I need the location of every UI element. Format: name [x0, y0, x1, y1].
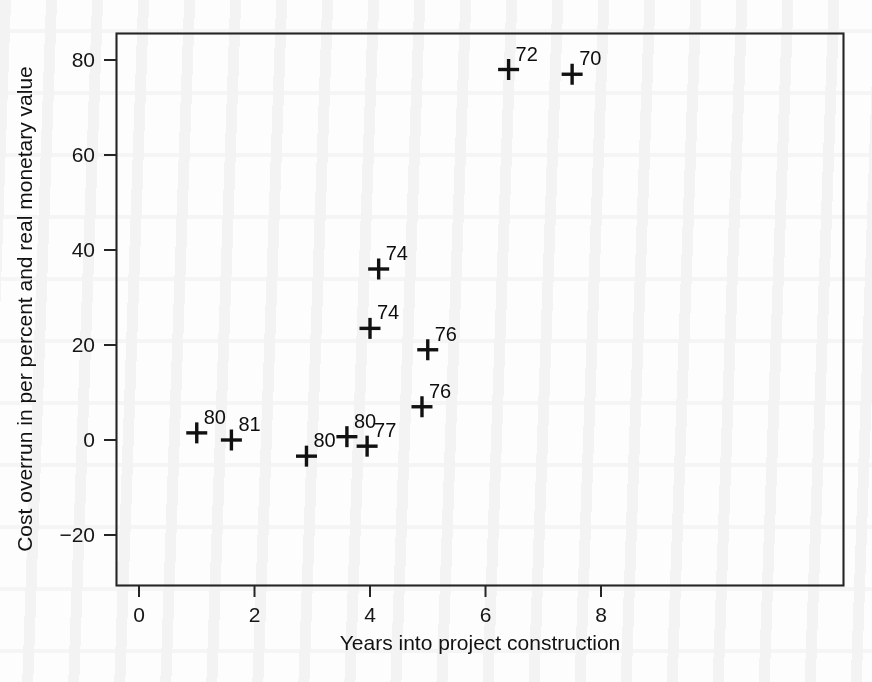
data-point-label: 74 [377, 301, 399, 323]
y-tick-label: 20 [72, 333, 95, 356]
y-axis-tick-labels: −20020406080 [59, 48, 95, 546]
data-point-label: 76 [429, 380, 451, 402]
y-axis-ticks [104, 60, 116, 535]
x-axis-ticks [139, 585, 601, 597]
data-point-label: 81 [238, 413, 260, 435]
data-point: 76 [411, 380, 451, 418]
x-axis-tick-labels: 02468 [133, 603, 607, 626]
data-point-label: 72 [516, 43, 538, 65]
y-tick-label: 60 [72, 143, 95, 166]
y-tick-label: 80 [72, 48, 95, 71]
data-point: 70 [562, 47, 602, 85]
data-point: 80 [296, 429, 336, 467]
y-axis-title: Cost overrun in per percent and real mon… [13, 66, 36, 552]
x-axis-title: Years into project construction [340, 631, 621, 654]
plot-canvas: −20020406080 02468 808180807774747676727… [0, 0, 872, 682]
data-point: 74 [368, 242, 408, 280]
data-point: 72 [498, 43, 538, 81]
scatter-plot-figure: −20020406080 02468 808180807774747676727… [0, 0, 872, 682]
data-point: 81 [221, 413, 261, 451]
y-tick-label: 0 [83, 428, 95, 451]
y-tick-label: 40 [72, 238, 95, 261]
data-point-label: 80 [354, 410, 376, 432]
data-point: 80 [336, 410, 376, 448]
x-tick-label: 0 [133, 603, 145, 626]
data-point-label: 77 [374, 419, 396, 441]
data-point: 80 [186, 406, 226, 444]
data-point-label: 76 [435, 323, 457, 345]
data-point: 74 [360, 301, 400, 339]
x-tick-label: 4 [364, 603, 376, 626]
x-tick-label: 8 [595, 603, 607, 626]
data-point-label: 74 [386, 242, 408, 264]
x-tick-label: 2 [249, 603, 261, 626]
y-tick-label: −20 [59, 523, 95, 546]
plot-frame [117, 34, 844, 586]
data-point: 76 [417, 323, 457, 361]
data-point-label: 70 [579, 47, 601, 69]
x-tick-label: 6 [480, 603, 492, 626]
data-point-layer: 8081808077747476767270 [186, 43, 601, 467]
data-point-label: 80 [313, 429, 335, 451]
data-point-label: 80 [204, 406, 226, 428]
